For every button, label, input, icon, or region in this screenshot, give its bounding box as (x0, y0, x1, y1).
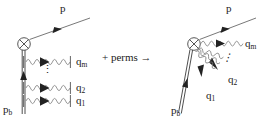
left-vertical-ellipsis: ⋮ (42, 68, 52, 72)
right-vertex-crossed-circle (188, 38, 201, 51)
left-fermion-arrow (53, 27, 63, 33)
right-eikonal-arrow (182, 78, 188, 88)
right-momentum-p-label: p (226, 3, 232, 14)
right-gluon-qm-arrow (216, 40, 225, 48)
right-gluon-qm-label: qm (245, 38, 256, 49)
right-diagonal-ellipsis: ⋮ (222, 54, 234, 61)
right-eikonal-line (179, 50, 193, 114)
figure-canvas: p qm q2 q1 pb ⋮ + perms → p qm q2 q1 pb … (0, 0, 274, 122)
left-momentum-p-label: p (60, 3, 66, 14)
right-gluon-q1-label: q1 (206, 90, 215, 101)
left-gluon-q2-arrow (40, 83, 50, 93)
left-gluon-q1-arrow (40, 96, 50, 106)
left-gluon-q2 (24, 82, 71, 94)
left-gluon-q2-label: q2 (76, 82, 85, 93)
left-gluon-q1-label: q1 (76, 95, 85, 106)
right-gluon-q1-arrow (198, 65, 205, 78)
left-momentum-pb-label: pb (3, 104, 12, 115)
left-vertex-crossed-circle (18, 38, 31, 51)
perms-connector-text: + perms → (102, 51, 152, 63)
right-diagram-group (179, 18, 257, 114)
perms-arrow-icon: → (141, 51, 152, 63)
right-momentum-pb-label: pb (171, 105, 180, 116)
right-fermion-arrow (221, 27, 231, 33)
right-gluon-qm (201, 40, 243, 48)
left-gluon-qm-label: qm (76, 56, 87, 67)
left-eikonal-arrow (20, 71, 27, 80)
right-gluon-q2-label: q2 (228, 74, 237, 85)
left-gluon-q1 (24, 95, 71, 107)
left-outgoing-fermion (30, 18, 91, 40)
